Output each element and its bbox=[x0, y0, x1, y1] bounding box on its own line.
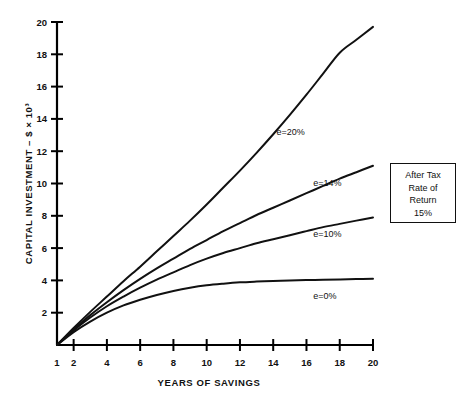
y-axis-tick-label: 12 bbox=[36, 146, 47, 157]
x-axis-tick-label: 16 bbox=[301, 357, 312, 368]
y-axis-tick-label: 16 bbox=[36, 81, 47, 92]
y-axis-tick-label: 4 bbox=[42, 275, 48, 286]
annotation-line-4: 15% bbox=[391, 207, 455, 220]
x-axis-tick-label: 6 bbox=[138, 357, 143, 368]
x-axis-tick-label: 20 bbox=[368, 357, 379, 368]
chart-container: 246810121416182012468101214161820 e=20%e… bbox=[0, 0, 473, 402]
x-axis-title: YEARS OF SAVINGS bbox=[158, 377, 261, 388]
curve-labels: e=20%e=14%e=10%e=0% bbox=[277, 127, 342, 301]
y-axis-tick-label: 6 bbox=[42, 243, 47, 254]
annotation-line-2: Rate of bbox=[391, 182, 455, 195]
y-axis-tick-label: 10 bbox=[36, 178, 47, 189]
curve-label-2: e=14% bbox=[313, 178, 341, 188]
curve-label-3: e=10% bbox=[313, 229, 341, 239]
annotation-box: After TaxRate ofReturn15% bbox=[390, 163, 456, 223]
curve-label-4: e=0% bbox=[313, 291, 336, 301]
x-axis-tick-label: 14 bbox=[268, 357, 279, 368]
curve-label-1: e=20% bbox=[277, 127, 305, 137]
x-axis-tick-label: 1 bbox=[54, 357, 60, 368]
y-axis-tick-label: 14 bbox=[36, 113, 47, 124]
x-axis-tick-label: 10 bbox=[201, 357, 212, 368]
data-curve-4 bbox=[57, 279, 373, 345]
x-axis-tick-label: 4 bbox=[104, 357, 110, 368]
x-axis-tick-label: 12 bbox=[235, 357, 246, 368]
x-axis-tick-label: 2 bbox=[71, 357, 76, 368]
annotation-line-3: Return bbox=[391, 194, 455, 207]
annotation-line-1: After Tax bbox=[391, 169, 455, 182]
x-axis-tick-label: 18 bbox=[334, 357, 345, 368]
x-axis-tick-label: 8 bbox=[171, 357, 176, 368]
y-axis-tick-label: 20 bbox=[36, 17, 47, 28]
y-axis-tick-label: 18 bbox=[36, 49, 47, 60]
y-axis-tick-label: 8 bbox=[42, 210, 47, 221]
y-axis-tick-label: 2 bbox=[42, 307, 47, 318]
y-axis-title: CAPITAL INVESTMENT – $ × 10³ bbox=[23, 103, 34, 264]
